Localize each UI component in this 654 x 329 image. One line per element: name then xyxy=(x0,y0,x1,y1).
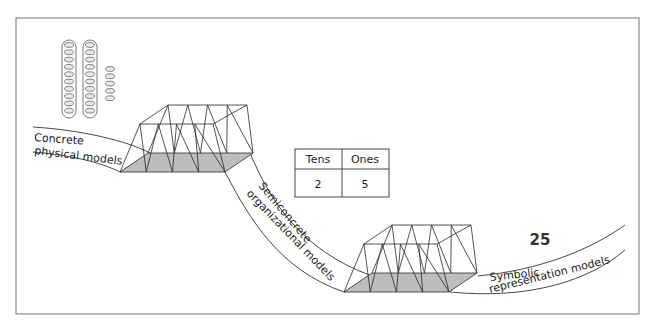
bead-icon xyxy=(65,108,74,113)
bead-icon xyxy=(65,79,74,84)
bead-icon xyxy=(65,57,74,62)
concrete-label: Concrete physical models xyxy=(34,131,124,168)
bead-icon xyxy=(65,86,74,91)
bead-icon xyxy=(65,43,74,48)
bead-icon xyxy=(86,50,95,55)
bead-icon xyxy=(106,96,115,101)
tens-value: 2 xyxy=(315,178,322,191)
bead-icon xyxy=(106,81,115,86)
semiconcrete-label-line2: organizational models xyxy=(244,187,338,284)
bead-icon xyxy=(106,89,115,94)
bead-icon xyxy=(86,79,95,84)
bead-icon xyxy=(86,65,95,70)
bead-icon xyxy=(86,43,95,48)
ones-header: Ones xyxy=(351,153,379,166)
pyramid-frame-1 xyxy=(120,105,253,172)
bead-icon xyxy=(106,74,115,79)
bead-icon xyxy=(86,94,95,99)
bead-icon xyxy=(65,94,74,99)
bead-icon xyxy=(86,57,95,62)
base-ten-beads xyxy=(62,40,115,118)
symbolic-label: Symbolic representation models xyxy=(488,253,612,296)
concrete-label-line2: physical models xyxy=(34,144,124,168)
bead-icon xyxy=(65,72,74,77)
semiconcrete-label: Semiconcrete organizational models xyxy=(244,180,338,284)
ones-value: 5 xyxy=(362,178,369,191)
pyramid-frame-2 xyxy=(344,225,477,292)
bead-icon xyxy=(65,50,74,55)
place-value-table: Tens Ones 2 5 xyxy=(295,149,389,197)
tens-header: Tens xyxy=(305,153,331,166)
bead-icon xyxy=(86,101,95,106)
symbolic-number: 25 xyxy=(530,231,551,249)
bead-icon xyxy=(65,101,74,106)
bead-icon xyxy=(106,67,115,72)
bead-icon xyxy=(65,65,74,70)
bead-icon xyxy=(86,86,95,91)
concrete-to-symbolic-diagram: Concrete physical models Semiconcrete or… xyxy=(0,0,654,329)
bead-icon xyxy=(86,108,95,113)
bead-icon xyxy=(86,72,95,77)
